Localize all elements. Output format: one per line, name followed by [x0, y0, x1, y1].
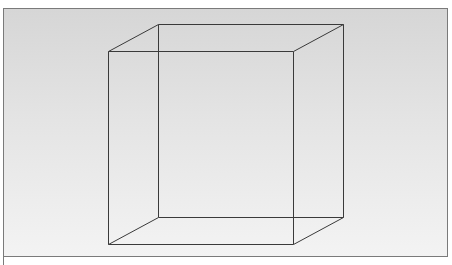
depth-edge-top-right [294, 25, 344, 52]
depth-edge-bottom-right [294, 218, 344, 245]
front-face-edges [109, 52, 294, 245]
diagram-canvas [0, 0, 452, 265]
depth-edge-top-left [109, 25, 159, 52]
wireframe-cube [0, 0, 452, 265]
depth-edges [109, 25, 344, 245]
depth-edge-bottom-left [109, 218, 159, 245]
back-face-edges [159, 25, 344, 218]
